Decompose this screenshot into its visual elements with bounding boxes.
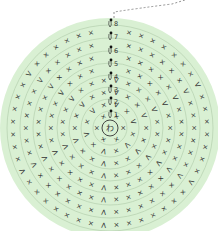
single-crochet-symbol: × [23,112,32,119]
single-crochet-symbol: × [35,118,43,125]
single-crochet-symbol: × [177,131,185,138]
single-crochet-symbol: × [9,131,17,137]
increase-symbol: V [101,195,107,203]
single-crochet-symbol: × [113,171,120,180]
slip-stitch-dot [110,97,113,100]
round-label-3: 3 [114,86,118,94]
slip-stitch-dot [110,85,113,88]
slip-stitch-dot [110,72,113,75]
single-crochet-symbol: × [22,125,30,131]
crochet-chart: わ ××××××V×V×V×V×V×V×V××V××V××V××V××V××V×… [0,0,218,231]
single-crochet-symbol: × [203,131,211,137]
single-crochet-symbol: × [153,118,162,125]
single-crochet-symbol: × [190,125,198,131]
single-crochet-symbol: × [71,125,79,131]
round-label-8: 8 [114,20,118,28]
single-crochet-symbol: × [23,137,32,144]
single-crochet-symbol: × [166,125,174,131]
single-crochet-symbol: × [189,137,198,144]
round-label-5: 5 [114,60,118,68]
center-label: わ [106,124,114,133]
single-crochet-symbol: × [100,77,107,86]
slip-stitch-dot [110,19,113,22]
round-label-4: 4 [114,73,118,81]
single-crochet-symbol: × [119,125,127,131]
single-crochet-symbol: × [93,125,101,131]
single-crochet-symbol: × [47,125,55,131]
slip-stitch-dot [110,46,113,49]
round-label-7: 7 [114,33,118,41]
single-crochet-symbol: × [142,125,150,131]
single-crochet-symbol: × [177,118,185,125]
single-crochet-symbol: × [113,221,119,229]
round-label-2: 2 [114,98,118,106]
single-crochet-symbol: × [189,112,198,119]
slip-stitch-dot [110,110,113,113]
single-crochet-symbol: × [153,131,162,138]
single-crochet-symbol: × [113,195,120,203]
single-crochet-symbol: × [59,118,68,125]
single-crochet-symbol: × [59,131,68,138]
single-crochet-symbol: × [203,118,211,124]
single-crochet-symbol: × [113,208,119,216]
slip-stitch-dot [110,32,113,35]
single-crochet-symbol: × [9,118,17,124]
dashed-leader-line [114,0,185,18]
single-crochet-symbol: × [35,131,43,138]
round-label-1: 1 [114,111,118,119]
round-label-6: 6 [114,47,118,55]
single-crochet-symbol: × [113,183,120,192]
increase-symbol: V [101,208,107,216]
increase-symbol: V [101,221,107,229]
slip-stitch-dot [110,59,113,62]
